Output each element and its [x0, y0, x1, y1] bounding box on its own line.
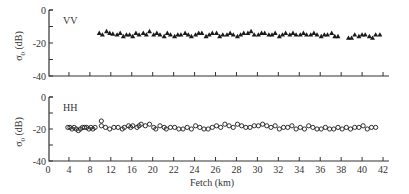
triangle-marker — [273, 31, 278, 35]
circle-marker — [99, 119, 103, 123]
circle-marker — [298, 125, 302, 129]
x-tick-label: 8 — [87, 164, 92, 175]
triangle-marker — [165, 31, 170, 35]
vv-panel: 0-20-40VVσ0 (dB) — [13, 5, 389, 82]
x-tick-labels: 0481216202224262830323436384042 — [46, 164, 389, 175]
circle-marker — [323, 125, 327, 129]
vv-y-axis-title: σ0 (dB) — [13, 31, 27, 61]
triangle-marker — [363, 32, 368, 36]
circle-marker — [116, 125, 120, 129]
x-tick-label: 16 — [127, 164, 137, 175]
circle-marker — [256, 124, 260, 128]
circle-marker — [281, 125, 285, 129]
triangle-marker — [210, 31, 215, 35]
x-tick-label: 40 — [357, 164, 367, 175]
circle-marker — [244, 125, 248, 129]
circle-marker — [365, 127, 369, 131]
circle-marker — [193, 124, 197, 128]
x-tick-label: 24 — [190, 164, 200, 175]
triangle-marker — [373, 32, 378, 36]
circle-marker — [357, 125, 361, 129]
triangle-marker — [178, 32, 183, 36]
triangle-marker — [141, 31, 146, 35]
circle-marker — [277, 127, 281, 131]
triangle-marker — [220, 32, 225, 36]
circle-marker — [231, 125, 235, 129]
triangle-marker — [311, 31, 316, 35]
circle-marker — [307, 124, 311, 128]
x-tick-label: 34 — [294, 164, 304, 175]
triangle-marker — [367, 34, 372, 38]
triangle-marker — [352, 32, 357, 36]
triangle-marker — [97, 31, 102, 35]
circle-marker — [147, 122, 151, 126]
triangle-marker — [325, 32, 330, 36]
x-tick-label: 22 — [169, 164, 179, 175]
circle-marker — [290, 124, 294, 128]
x-tick-label: 20 — [148, 164, 158, 175]
y-tick-label: 0 — [41, 5, 46, 16]
circle-marker — [198, 125, 202, 129]
circle-marker — [219, 125, 223, 129]
triangle-marker — [118, 31, 123, 35]
circle-marker — [185, 125, 189, 129]
circle-marker — [240, 124, 244, 128]
circle-marker — [361, 124, 365, 128]
circle-marker — [340, 127, 344, 131]
vv-axes — [49, 10, 389, 76]
circle-marker — [112, 125, 116, 129]
circle-marker — [265, 124, 269, 128]
triangle-marker — [241, 31, 246, 35]
x-tick-label: 12 — [106, 164, 116, 175]
x-tick-label: 0 — [46, 164, 51, 175]
x-tick-label: 28 — [231, 164, 241, 175]
circle-marker — [315, 127, 319, 131]
circle-marker — [248, 125, 252, 129]
y-tick-label: -20 — [33, 124, 46, 135]
circle-marker — [235, 122, 239, 126]
triangle-marker — [214, 31, 219, 35]
circle-marker — [348, 127, 352, 131]
circle-marker — [302, 127, 306, 131]
circle-marker — [103, 125, 107, 129]
circle-marker — [99, 124, 103, 128]
circle-marker — [214, 124, 218, 128]
circle-marker — [227, 124, 231, 128]
triangle-marker — [377, 32, 382, 36]
fetch-backscatter-chart: 0-20-40VVσ0 (dB)0-20-40HHσ0 (dB)04812162… — [0, 0, 409, 194]
circle-marker — [344, 125, 348, 129]
triangle-marker — [127, 32, 132, 36]
triangle-marker — [199, 31, 204, 35]
x-tick-label: 38 — [336, 164, 346, 175]
hh-panel: 0-20-40HHσ0 (dB) — [13, 92, 389, 167]
x-axis-title: Fetch (km) — [190, 177, 234, 189]
circle-marker — [294, 127, 298, 131]
circle-marker — [189, 127, 193, 131]
x-tick-label: 42 — [378, 164, 388, 175]
vv-data-points — [97, 29, 383, 40]
circle-marker — [252, 124, 256, 128]
hh-y-axis-title: σ0 (dB) — [13, 117, 27, 147]
y-tick-label: 0 — [41, 92, 46, 103]
circle-marker — [158, 124, 162, 128]
circle-marker — [168, 125, 172, 129]
circle-marker — [336, 125, 340, 129]
circle-marker — [353, 125, 357, 129]
circle-marker — [108, 127, 112, 131]
circle-marker — [286, 125, 290, 129]
circle-marker — [374, 125, 378, 129]
y-tick-label: -40 — [33, 156, 46, 167]
y-tick-label: -40 — [33, 71, 46, 82]
triangle-marker — [228, 31, 233, 35]
triangle-marker — [335, 34, 340, 38]
circle-marker — [327, 127, 331, 131]
circle-marker — [260, 122, 264, 126]
triangle-marker — [154, 31, 159, 35]
x-tick-label: 30 — [252, 164, 262, 175]
x-tick-label: 36 — [315, 164, 325, 175]
triangle-marker — [329, 31, 334, 35]
circle-marker — [269, 125, 273, 129]
triangle-marker — [147, 29, 152, 33]
circle-marker — [181, 127, 185, 131]
circle-marker — [332, 127, 336, 131]
